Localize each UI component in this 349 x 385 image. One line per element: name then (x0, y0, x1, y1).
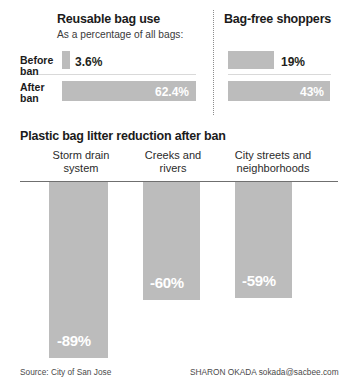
category-label-city-streets-line2: neighborhoods (222, 162, 324, 175)
row-label-after-ban-line2: ban (20, 93, 62, 104)
row-label-before-ban: Before ban (20, 55, 62, 76)
bar-value-bagfree-after-ban: 43% (300, 86, 324, 98)
reusable-bags-section: Reusable bag use As a percentage of all … (0, 0, 349, 124)
reusable-bag-use-title: Reusable bag use (57, 12, 160, 26)
bar-value-bagfree-before-ban: 19% (281, 56, 305, 68)
category-label-creeks-rivers-line2: rivers (130, 162, 216, 175)
category-label-creeks-rivers: Creeks and rivers (130, 149, 216, 175)
category-label-storm-drain-line2: system (36, 162, 126, 175)
panel-divider (213, 10, 214, 115)
bar-reusable-before-ban (62, 51, 70, 69)
row-label-after-ban: After ban (20, 82, 62, 103)
reusable-bag-use-subtitle: As a percentage of all bags: (57, 29, 183, 40)
bar-value-city-streets: -59% (242, 273, 276, 288)
row-label-after-ban-line1: After (20, 82, 62, 93)
litter-reduction-section: Plastic bag litter reduction after ban S… (0, 124, 349, 385)
category-label-city-streets: City streets and neighborhoods (222, 149, 324, 175)
row-label-before-ban-line1: Before (20, 55, 62, 66)
source-attribution: Source: City of San Jose (20, 367, 111, 377)
author-credit: SHARON OKADA sokada@sacbee.com (190, 367, 339, 377)
category-label-city-streets-line1: City streets and (222, 149, 324, 162)
row-label-before-ban-line2: ban (20, 66, 62, 77)
bar-value-storm-drain: -89% (57, 333, 91, 348)
bar-value-reusable-before-ban: 3.6% (75, 56, 102, 68)
litter-reduction-title: Plastic bag litter reduction after ban (20, 129, 226, 143)
bar-value-creeks-rivers: -60% (150, 275, 184, 290)
category-label-storm-drain: Storm drain system (36, 149, 126, 175)
row-separator-right (228, 74, 331, 75)
bar-value-reusable-after-ban: 62.4% (155, 86, 189, 98)
bag-free-shoppers-title: Bag-free shoppers (224, 12, 331, 26)
bar-bagfree-before-ban (228, 51, 274, 69)
category-label-creeks-rivers-line1: Creeks and (130, 149, 216, 162)
category-label-storm-drain-line1: Storm drain (36, 149, 126, 162)
